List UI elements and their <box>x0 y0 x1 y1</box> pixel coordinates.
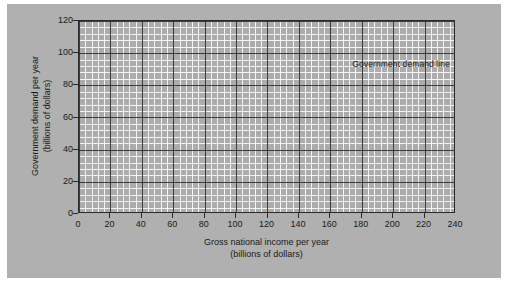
y-tick-mark-20 <box>73 181 78 182</box>
x-tick-mark-20 <box>109 213 110 218</box>
y-tick-mark-40 <box>73 149 78 150</box>
y-axis-title-units: (billions of dollars) <box>41 20 53 213</box>
x-axis-title-units: (billions of dollars) <box>78 248 455 260</box>
x-tick-mark-220 <box>424 213 425 218</box>
x-tick-mark-120 <box>267 213 268 218</box>
government-demand-line-annotation: Government demand line <box>352 59 450 69</box>
x-tick-label-120: 120 <box>259 219 274 229</box>
y-axis-title-main: Government demand per year <box>29 20 41 213</box>
x-axis-title-main: Gross national income per year <box>78 236 455 248</box>
x-tick-mark-140 <box>298 213 299 218</box>
x-tick-mark-100 <box>235 213 236 218</box>
x-tick-label-100: 100 <box>228 219 243 229</box>
y-tick-label-80: 80 <box>63 79 73 89</box>
y-tick-mark-120 <box>73 20 78 21</box>
x-tick-mark-80 <box>204 213 205 218</box>
y-axis-title: Government demand per year (billions of … <box>29 20 53 213</box>
y-tick-mark-60 <box>73 117 78 118</box>
x-tick-label-180: 180 <box>353 219 368 229</box>
x-tick-label-240: 240 <box>447 219 462 229</box>
x-tick-label-220: 220 <box>416 219 431 229</box>
x-tick-mark-60 <box>172 213 173 218</box>
x-tick-label-0: 0 <box>75 219 80 229</box>
x-tick-mark-40 <box>141 213 142 218</box>
chart-figure: Government demand line 0 20 40 60 80 100… <box>7 4 501 278</box>
x-axis-tick-labels: 0 20 40 60 80 100 120 140 160 180 200 22… <box>78 219 455 233</box>
y-tick-label-40: 40 <box>63 144 73 154</box>
x-tick-label-60: 60 <box>167 219 177 229</box>
x-tick-mark-200 <box>392 213 393 218</box>
y-tick-mark-0 <box>73 213 78 214</box>
y-tick-label-100: 100 <box>58 47 73 57</box>
x-tick-label-200: 200 <box>385 219 400 229</box>
y-tick-label-120: 120 <box>58 15 73 25</box>
y-tick-label-20: 20 <box>63 176 73 186</box>
x-tick-label-160: 160 <box>322 219 337 229</box>
plot-area: Government demand line <box>78 20 455 213</box>
x-tick-label-140: 140 <box>290 219 305 229</box>
y-tick-label-60: 60 <box>63 112 73 122</box>
y-tick-mark-100 <box>73 52 78 53</box>
x-tick-label-20: 20 <box>104 219 114 229</box>
y-tick-mark-80 <box>73 84 78 85</box>
x-tick-label-80: 80 <box>199 219 209 229</box>
x-tick-label-40: 40 <box>136 219 146 229</box>
x-tick-mark-160 <box>329 213 330 218</box>
x-tick-mark-180 <box>361 213 362 218</box>
x-axis-title: Gross national income per year (billions… <box>78 236 455 260</box>
